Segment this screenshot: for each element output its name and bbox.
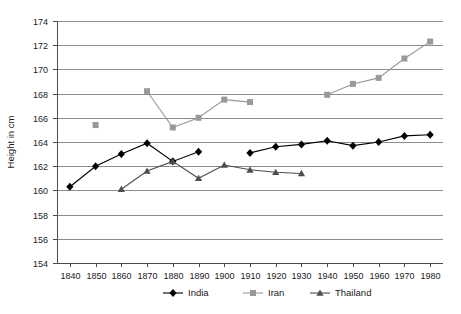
- data-point-square: [93, 122, 99, 128]
- x-tick-label: 1900: [214, 271, 234, 281]
- y-tick-label: 164: [33, 138, 48, 148]
- chart-background: [0, 0, 461, 314]
- y-tick-label: 166: [33, 114, 48, 124]
- data-point-square: [324, 92, 330, 98]
- y-axis-title: Height in cm: [5, 116, 16, 169]
- y-tick-label: 162: [33, 162, 48, 172]
- x-tick-label: 1960: [369, 271, 389, 281]
- x-tick-label: 1950: [343, 271, 363, 281]
- x-tick-label: 1910: [240, 271, 260, 281]
- legend-label: Thailand: [335, 287, 371, 298]
- y-tick-label: 156: [33, 235, 48, 245]
- data-point-square: [144, 88, 150, 94]
- data-point-square: [196, 115, 202, 121]
- y-tick-label: 154: [33, 259, 48, 269]
- data-point-square: [250, 290, 256, 296]
- x-tick-label: 1890: [189, 271, 209, 281]
- x-tick-label: 1840: [60, 271, 80, 281]
- data-point-square: [247, 99, 253, 105]
- x-tick-labels: 1840185018601870188018901900191019201930…: [60, 271, 440, 281]
- y-tick-label: 170: [33, 65, 48, 75]
- data-point-square: [376, 75, 382, 81]
- data-point-square: [427, 39, 433, 45]
- line-chart: 154156158160162164166168170172174 184018…: [0, 0, 461, 314]
- chart-legend: IndiaIranThailand: [163, 287, 371, 298]
- x-tick-label: 1920: [266, 271, 286, 281]
- x-tick-label: 1980: [420, 271, 440, 281]
- data-point-square: [170, 124, 176, 130]
- chart-canvas: 154156158160162164166168170172174 184018…: [0, 0, 461, 314]
- y-tick-label: 160: [33, 186, 48, 196]
- legend-label: Iran: [268, 287, 284, 298]
- x-tick-label: 1850: [86, 271, 106, 281]
- legend-label: India: [188, 287, 209, 298]
- data-point-square: [401, 56, 407, 62]
- x-tick-label: 1930: [291, 271, 311, 281]
- y-tick-label: 172: [33, 41, 48, 51]
- y-tick-label: 158: [33, 211, 48, 221]
- x-tick-label: 1940: [317, 271, 337, 281]
- x-tick-label: 1860: [111, 271, 131, 281]
- data-point-square: [350, 81, 356, 87]
- x-tick-label: 1970: [394, 271, 414, 281]
- y-tick-label: 168: [33, 90, 48, 100]
- y-tick-label: 174: [33, 17, 48, 27]
- data-point-square: [221, 97, 227, 103]
- x-tick-label: 1880: [163, 271, 183, 281]
- x-tick-label: 1870: [137, 271, 157, 281]
